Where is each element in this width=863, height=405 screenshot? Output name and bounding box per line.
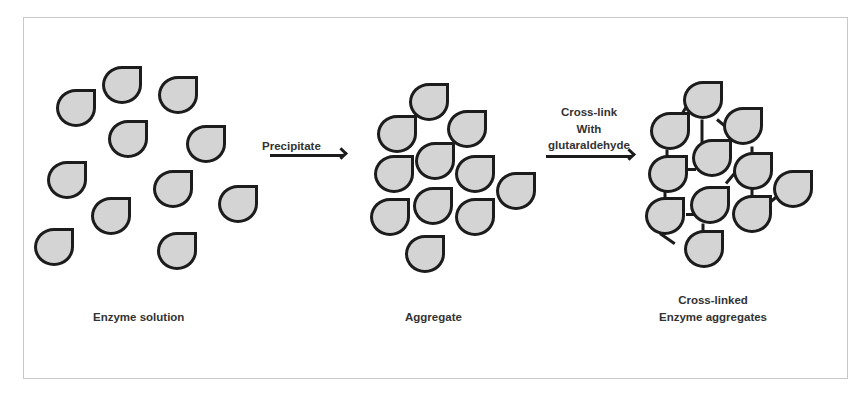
- enzyme-icon: [413, 187, 453, 225]
- cross-link-label-line2: With: [545, 122, 633, 136]
- cross-link-arrow-icon: [546, 155, 632, 158]
- enzyme-icon: [773, 170, 813, 208]
- enzyme-icon: [218, 185, 258, 223]
- aggregate-label: Aggregate: [405, 310, 462, 324]
- enzyme-icon: [377, 115, 417, 153]
- enzyme-icon: [496, 172, 536, 210]
- enzyme-icon: [370, 198, 410, 236]
- enzyme-icon: [157, 232, 197, 270]
- enzyme-icon: [186, 125, 226, 163]
- enzyme-icon: [648, 155, 688, 193]
- cross-linked-label-line1: Cross-linked: [648, 293, 778, 307]
- enzyme-icon: [692, 139, 732, 177]
- enzyme-icon: [650, 112, 690, 150]
- enzyme-icon: [158, 76, 198, 114]
- enzyme-icon: [732, 195, 772, 233]
- enzyme-icon: [102, 66, 142, 104]
- enzyme-icon: [374, 155, 414, 193]
- precipitate-arrow-icon: [270, 154, 344, 157]
- enzyme-icon: [415, 142, 455, 180]
- enzyme-icon: [645, 197, 685, 235]
- enzyme-icon: [733, 152, 773, 190]
- enzyme-icon: [47, 161, 87, 199]
- enzyme-icon: [56, 89, 96, 127]
- cross-link-label-line1: Cross-link: [545, 105, 633, 119]
- enzyme-icon: [690, 186, 730, 224]
- enzyme-icon: [405, 235, 445, 273]
- enzyme-icon: [153, 170, 193, 208]
- cross-link-label-line3: glutaraldehyde: [545, 138, 633, 152]
- enzyme-icon: [455, 198, 495, 236]
- enzyme-icon: [684, 230, 724, 268]
- enzyme-icon: [34, 228, 74, 266]
- precipitate-label: Precipitate: [262, 139, 321, 153]
- enzyme-icon: [108, 120, 148, 158]
- enzyme-icon: [91, 197, 131, 235]
- enzyme-icon: [455, 155, 495, 193]
- enzyme-solution-label: Enzyme solution: [93, 310, 184, 324]
- cross-linked-label-line2: Enzyme aggregates: [648, 310, 778, 324]
